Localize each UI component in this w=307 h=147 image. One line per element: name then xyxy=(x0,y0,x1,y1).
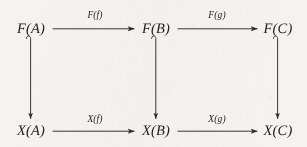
edge-label-top-left: F(f) xyxy=(87,10,102,20)
node-label-XA: X(A) xyxy=(17,123,45,140)
node-label-XB: X(B) xyxy=(142,123,170,140)
arrow-left-down xyxy=(26,36,30,119)
node-label-FA: F(A) xyxy=(17,21,45,38)
node-label-XC: X(C) xyxy=(264,123,293,140)
commutative-diagram: F(A) F(B) F(C) X(A) X(B) X(C) F(f) F(g) … xyxy=(0,0,307,147)
arrow-middle-down xyxy=(152,36,156,119)
edge-label-top-right: F(g) xyxy=(208,10,225,20)
edge-label-bottom-left: X(f) xyxy=(87,114,102,124)
arrow-right-down xyxy=(273,36,277,119)
edge-label-bottom-right: X(g) xyxy=(208,114,225,124)
node-label-FC: F(C) xyxy=(264,21,293,38)
node-label-FB: F(B) xyxy=(142,21,170,38)
